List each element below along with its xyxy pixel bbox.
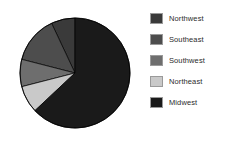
- pie-plot-area: [0, 0, 145, 145]
- legend-item-southeast[interactable]: Southeast: [150, 29, 227, 50]
- legend-swatch-southwest: [150, 55, 163, 66]
- legend-item-northwest[interactable]: Northwest: [150, 8, 227, 29]
- legend-item-label: Northeast: [169, 77, 202, 86]
- legend-item-label: Southeast: [169, 35, 204, 44]
- legend-swatch-midwest: [150, 97, 163, 108]
- legend-swatch-northwest: [150, 13, 163, 24]
- chart-legend: NorthwestSoutheastSouthwestNortheastMidw…: [150, 8, 227, 116]
- legend-item-northeast[interactable]: Northeast: [150, 71, 227, 92]
- legend-swatch-northeast: [150, 76, 163, 87]
- legend-item-label: Northwest: [169, 14, 204, 23]
- legend-item-label: Southwest: [169, 56, 205, 65]
- pie-chart-figure: NorthwestSoutheastSouthwestNortheastMidw…: [0, 0, 227, 145]
- legend-swatch-southeast: [150, 34, 163, 45]
- legend-item-southwest[interactable]: Southwest: [150, 50, 227, 71]
- pie-slice-group: [20, 18, 130, 128]
- pie-svg: [0, 0, 145, 145]
- legend-item-label: Midwest: [169, 98, 197, 107]
- legend-item-midwest[interactable]: Midwest: [150, 92, 227, 113]
